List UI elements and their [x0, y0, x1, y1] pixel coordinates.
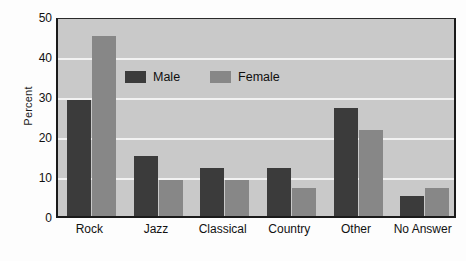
y-tick-label: 50 [26, 12, 52, 24]
bar-classical-male[interactable] [200, 168, 224, 216]
legend-label: Female [238, 70, 280, 84]
male-swatch [125, 71, 146, 83]
plot-area [56, 18, 456, 218]
bar-classical-female[interactable] [225, 180, 249, 216]
bar-group [200, 19, 249, 216]
bars-layer [58, 19, 454, 216]
bar-country-female[interactable] [292, 188, 316, 216]
bar-group [267, 19, 316, 216]
bar-group [400, 19, 449, 216]
bar-other-male[interactable] [334, 108, 358, 216]
y-tick-label: 40 [26, 52, 52, 64]
bar-rock-female[interactable] [92, 36, 116, 216]
female-swatch [210, 71, 231, 83]
bar-jazz-female[interactable] [159, 180, 183, 216]
legend-entry-male[interactable]: Male [125, 70, 180, 84]
bar-other-female[interactable] [359, 130, 383, 216]
legend-entry-female[interactable]: Female [210, 70, 280, 84]
legend-label: Male [153, 70, 180, 84]
bar-country-male[interactable] [267, 168, 291, 216]
bar-jazz-male[interactable] [134, 156, 158, 216]
y-tick-label: 10 [26, 172, 52, 184]
x-axis-tick-labels: RockJazzClassicalCountryOtherNo Answer [56, 222, 456, 244]
bar-no-answer-male[interactable] [400, 196, 424, 216]
bar-rock-male[interactable] [67, 100, 91, 216]
y-tick-label: 30 [26, 92, 52, 104]
bar-no-answer-female[interactable] [425, 188, 449, 216]
y-tick-label: 20 [26, 132, 52, 144]
legend: MaleFemale [125, 70, 280, 84]
bar-chart: Percent 50403020100 MaleFemale RockJazzC… [0, 0, 466, 261]
bar-group [67, 19, 116, 216]
bar-group [334, 19, 383, 216]
bar-group [134, 19, 183, 216]
x-tick-label: No Answer [373, 222, 466, 236]
